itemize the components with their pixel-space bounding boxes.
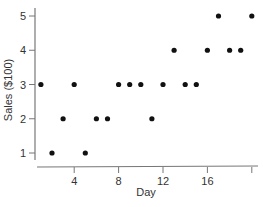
x-tick-label: 12 bbox=[157, 175, 169, 187]
data-point bbox=[105, 116, 110, 121]
data-point bbox=[116, 82, 121, 87]
data-point bbox=[238, 48, 243, 53]
data-point bbox=[94, 116, 99, 121]
x-axis-line bbox=[37, 166, 258, 167]
scatter-chart: 12345 481216 Day Sales ($100) bbox=[0, 0, 263, 207]
data-point bbox=[83, 150, 88, 155]
data-point bbox=[227, 48, 232, 53]
data-point bbox=[61, 116, 66, 121]
x-axis: 481216 bbox=[37, 166, 258, 187]
data-point bbox=[172, 48, 177, 53]
data-point bbox=[249, 13, 254, 18]
y-axis-label: Sales ($100) bbox=[2, 59, 14, 121]
x-tick-label: 4 bbox=[71, 175, 77, 187]
data-point bbox=[72, 82, 77, 87]
x-tick-label: 16 bbox=[201, 175, 213, 187]
data-point bbox=[183, 82, 188, 87]
data-point bbox=[49, 150, 54, 155]
data-point bbox=[160, 82, 165, 87]
y-tick-label: 2 bbox=[20, 113, 26, 125]
y-tick-label: 5 bbox=[20, 10, 26, 22]
y-tick-label: 4 bbox=[20, 44, 26, 56]
x-axis-label: Day bbox=[136, 186, 156, 198]
x-tick-label: 8 bbox=[116, 175, 122, 187]
y-tick-label: 3 bbox=[20, 79, 26, 91]
data-point bbox=[216, 13, 221, 18]
data-point bbox=[127, 82, 132, 87]
y-axis: 12345 bbox=[20, 8, 35, 160]
data-point bbox=[149, 116, 154, 121]
data-point bbox=[38, 82, 43, 87]
y-tick-label: 1 bbox=[20, 147, 26, 159]
data-point bbox=[138, 82, 143, 87]
data-points bbox=[38, 13, 254, 155]
data-point bbox=[205, 48, 210, 53]
data-point bbox=[194, 82, 199, 87]
